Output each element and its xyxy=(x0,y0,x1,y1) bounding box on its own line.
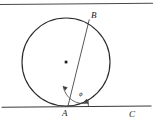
label-point-c: C xyxy=(129,110,135,119)
tangent-line-top xyxy=(0,3,153,4)
tangent-line-bottom xyxy=(2,106,151,107)
angle-arc-phi xyxy=(63,87,88,104)
label-point-b: B xyxy=(91,11,97,20)
label-angle-phi: ϕ xyxy=(79,91,83,98)
label-point-a: A xyxy=(62,109,68,118)
circle-center-dot xyxy=(65,61,68,64)
geometry-figure-container: A B C ϕ xyxy=(0,0,153,130)
